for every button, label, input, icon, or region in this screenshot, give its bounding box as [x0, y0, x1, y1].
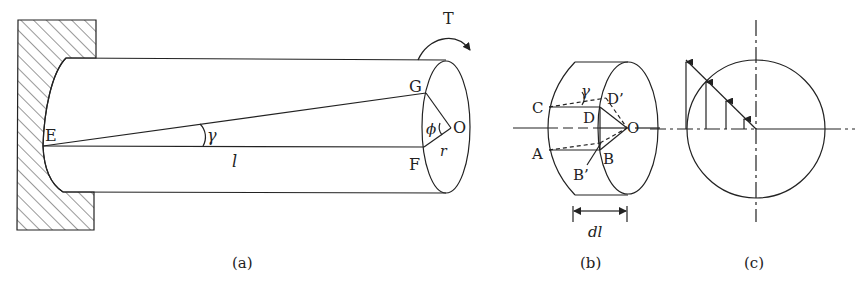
- shaft: [43, 58, 470, 193]
- label-O: O: [453, 118, 466, 137]
- label-O-b: O: [627, 119, 639, 137]
- label-phi: ϕ: [426, 120, 436, 138]
- caption-c: (c): [744, 254, 764, 272]
- label-B-prime: B’: [573, 166, 589, 184]
- caption-a: (a): [232, 254, 253, 272]
- label-D: D: [583, 109, 595, 127]
- panel-b: C D D’ A B B’ O γ dl (b): [513, 62, 660, 272]
- panel-a: T E G F O γ ϕ r l (a): [17, 9, 470, 272]
- label-dl: dl: [588, 223, 603, 241]
- label-gamma-a: γ: [207, 126, 217, 145]
- label-F: F: [409, 155, 420, 174]
- label-gamma-b: γ: [581, 82, 590, 100]
- torque-arrow: [418, 39, 470, 60]
- label-A: A: [531, 145, 543, 163]
- fixed-wall: [17, 20, 96, 230]
- panel-c: (c): [650, 20, 855, 272]
- label-D-prime: D’: [607, 90, 624, 108]
- label-l: l: [232, 152, 237, 171]
- label-G: G: [409, 77, 422, 96]
- caption-b: (b): [580, 254, 601, 272]
- label-E: E: [45, 126, 57, 145]
- label-B: B: [603, 150, 614, 168]
- torsion-figure: T E G F O γ ϕ r l (a): [0, 0, 855, 289]
- label-r: r: [440, 143, 448, 159]
- torque-label: T: [443, 9, 454, 28]
- label-C: C: [532, 99, 543, 117]
